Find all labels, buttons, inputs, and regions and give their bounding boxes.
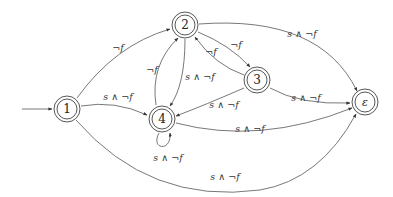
label-3-eps: s ∧ ¬f bbox=[291, 92, 322, 103]
node-1-label: 1 bbox=[63, 102, 71, 116]
state-diagram: 1 2 3 4 ε ¬f s ∧ ¬f s ∧ ¬f ¬f ¬f ¬f s ∧ … bbox=[0, 0, 393, 197]
diagram-svg: 1 2 3 4 ε ¬f s ∧ ¬f s ∧ ¬f ¬f ¬f ¬f s ∧ … bbox=[0, 0, 393, 197]
node-2-label: 2 bbox=[181, 18, 189, 32]
edge-4-self-loop bbox=[157, 133, 170, 147]
node-2: 2 bbox=[172, 12, 198, 38]
node-3: 3 bbox=[244, 67, 270, 93]
label-2-eps: s ∧ ¬f bbox=[287, 28, 318, 39]
label-1-eps: s ∧ ¬f bbox=[210, 171, 241, 182]
node-epsilon: ε bbox=[352, 89, 378, 115]
node-4: 4 bbox=[149, 106, 175, 132]
label-4-2: ¬f bbox=[146, 64, 159, 75]
node-3-label: 3 bbox=[253, 73, 261, 87]
edge-2-eps bbox=[199, 23, 357, 91]
label-1-4: s ∧ ¬f bbox=[103, 91, 134, 102]
label-2-4: s ∧ ¬f bbox=[185, 71, 216, 82]
label-3-2: ¬f bbox=[205, 46, 218, 57]
edge-4-2 bbox=[155, 38, 178, 105]
edge-1-4 bbox=[81, 104, 147, 115]
edge-2-4 bbox=[170, 39, 185, 106]
label-2-3: ¬f bbox=[230, 39, 243, 50]
node-4-label: 4 bbox=[158, 112, 166, 126]
label-4-self: s ∧ ¬f bbox=[153, 152, 184, 163]
label-4-eps: s ∧ ¬f bbox=[235, 123, 266, 134]
node-epsilon-label: ε bbox=[362, 96, 368, 109]
label-1-2: ¬f bbox=[112, 42, 125, 53]
label-3-4: s ∧ ¬f bbox=[209, 99, 240, 110]
node-1: 1 bbox=[54, 96, 80, 122]
